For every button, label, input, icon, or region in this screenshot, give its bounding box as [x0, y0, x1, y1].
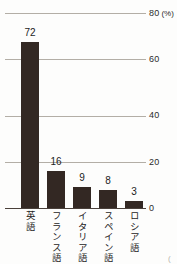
- y-axis-tick-80-label: 80: [149, 8, 159, 18]
- bar-spanish: [99, 190, 117, 208]
- bar-value-spanish: 8: [99, 176, 117, 186]
- bar-value-english: 72: [21, 28, 39, 38]
- category-label-russian: ロシア語: [129, 211, 139, 253]
- category-label-spanish: スペイン語: [103, 211, 113, 264]
- bar-english: [21, 42, 39, 208]
- gridline-80: [5, 13, 146, 14]
- bar-value-french: 16: [47, 157, 65, 167]
- bar-value-italian: 9: [73, 173, 91, 183]
- source-note: (: [168, 255, 177, 263]
- y-axis-tick-0: 0: [149, 204, 154, 213]
- bar-value-russian: 3: [125, 187, 143, 197]
- category-label-english: 英語: [25, 211, 35, 232]
- bar-russian: [125, 201, 143, 208]
- bar-chart: 80(%) 60 40 20 0 72 16 9 8 3 英語 フランス語 イタ…: [0, 0, 177, 264]
- bar-italian: [73, 187, 91, 208]
- axis-baseline-0: [5, 208, 146, 209]
- bar-french: [47, 171, 65, 208]
- y-axis-tick-20: 20: [149, 158, 159, 167]
- y-axis-unit-label: (%): [161, 9, 173, 18]
- y-axis-tick-80: 80(%): [149, 9, 174, 18]
- category-label-italian: イタリア語: [77, 211, 87, 264]
- y-axis-tick-60: 60: [149, 55, 159, 64]
- category-label-french: フランス語: [51, 211, 61, 264]
- y-axis-tick-40: 40: [149, 111, 159, 120]
